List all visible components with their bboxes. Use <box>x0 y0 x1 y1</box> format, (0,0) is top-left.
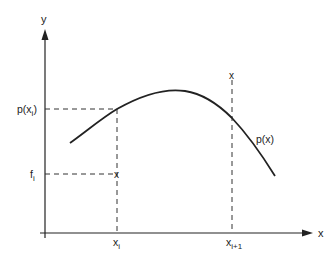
diagram-canvas: y x x x p(xi) fi xi xi+1 p(x) <box>0 0 327 256</box>
axes: y x <box>40 13 324 239</box>
polynomial-curve <box>70 90 275 176</box>
y-axis-label: y <box>41 13 47 25</box>
data-point-xi1-fi1: x <box>229 70 234 81</box>
y-axis-arrow-icon <box>42 29 49 40</box>
x-axis-label: x <box>318 227 324 239</box>
label-xi: xi <box>113 236 120 251</box>
label-xi1: xi+1 <box>226 236 243 251</box>
x-axis-arrow-icon <box>302 230 313 237</box>
label-fi: fi <box>30 168 35 183</box>
labels: p(xi) fi xi xi+1 p(x) <box>17 103 274 251</box>
label-xi-sub: i <box>118 242 120 251</box>
label-fi-sub: i <box>33 174 35 183</box>
label-p-xi: p(xi) <box>17 103 37 118</box>
data-point-xi-fi: x <box>114 169 119 180</box>
label-xi1-sub: i+1 <box>231 242 242 251</box>
data-points: x x <box>114 70 234 180</box>
curve-label: p(x) <box>256 133 274 145</box>
guide-lines <box>45 80 232 233</box>
label-p-xi-close: ) <box>33 103 37 115</box>
label-p-xi-main: p(x <box>17 103 32 115</box>
